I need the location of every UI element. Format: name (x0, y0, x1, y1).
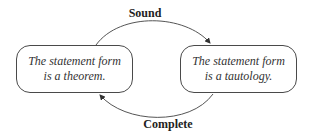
theorem-node-line2: is a theorem. (28, 69, 121, 84)
tautology-node-line2: is a tautology. (192, 69, 285, 84)
complete-arrow (100, 94, 213, 117)
theorem-node-line1: The statement form (28, 54, 121, 69)
sound-arrow (96, 21, 210, 45)
sound-label: Sound (129, 6, 162, 21)
complete-label: Complete (143, 117, 192, 132)
tautology-node: The statement form is a tautology. (180, 45, 297, 93)
theorem-node: The statement form is a theorem. (16, 45, 133, 93)
tautology-node-line1: The statement form (192, 54, 285, 69)
